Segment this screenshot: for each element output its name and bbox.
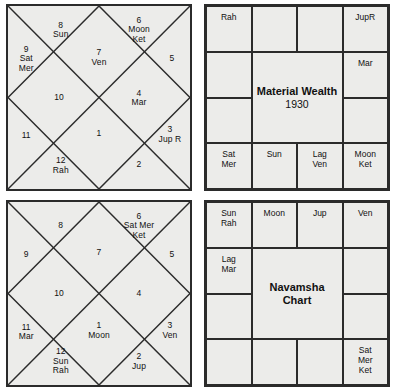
- house-number: 7: [97, 249, 102, 258]
- panel-navamsha-south: SunRahMoonJupVenSatMerKetLagMarNavamshaC…: [198, 196, 396, 392]
- house-planets: Ven: [92, 57, 107, 66]
- house-planets: Ket: [124, 230, 154, 239]
- rasi-cell-top-row-2[interactable]: [252, 6, 298, 52]
- panel-rasi-north: 123Jup R4Mar56MoonKet7Ven8Sun9SatMer1011…: [0, 0, 198, 196]
- rasi-cell-top-row-1[interactable]: Rah: [206, 6, 252, 52]
- rasi-cell-bottom-row-2[interactable]: Sun: [252, 143, 298, 189]
- house-planets: Mar: [132, 98, 147, 107]
- house-planets: Rah: [53, 366, 69, 375]
- house-3[interactable]: 3Ven: [162, 321, 177, 340]
- rasi-cell-left-col-2[interactable]: [206, 52, 252, 98]
- cell-planets: Ven: [298, 159, 342, 169]
- rasi-cell-left-col-3[interactable]: [206, 294, 252, 340]
- rasi-cell-right-col-3[interactable]: [343, 294, 389, 340]
- house-1[interactable]: 1: [97, 129, 102, 138]
- house-2[interactable]: 2Jup: [132, 352, 146, 371]
- rasi-cell-bottom-row-2[interactable]: [252, 339, 298, 385]
- house-6[interactable]: 6Sat MerKet: [124, 212, 154, 240]
- house-number: 11: [22, 131, 31, 140]
- house-5[interactable]: 5: [169, 250, 174, 259]
- house-6[interactable]: 6MoonKet: [128, 16, 150, 44]
- rasi-cell-left-col-3[interactable]: [206, 98, 252, 144]
- house-number: 8: [58, 221, 63, 230]
- house-5[interactable]: 5: [169, 54, 174, 63]
- material-wealth-chart: RahJupRMarMoonKetLagVenSunSatMerMaterial…: [204, 4, 390, 191]
- house-10[interactable]: 10: [54, 289, 64, 298]
- cell-planets: Sun: [207, 208, 251, 218]
- house-9[interactable]: 9: [24, 250, 29, 259]
- house-planets: Mer: [19, 64, 34, 73]
- house-number: 10: [54, 289, 64, 298]
- house-8[interactable]: 8Sun: [53, 20, 68, 39]
- rasi-cell-bottom-row-4[interactable]: SatMerKet: [343, 339, 389, 385]
- rasi-cell-bottom-row-1[interactable]: [206, 339, 252, 385]
- house-3[interactable]: 3Jup R: [159, 125, 182, 144]
- rasi-north-chart: 123Jup R4Mar56MoonKet7Ven8Sun9SatMer1011…: [6, 4, 192, 191]
- rasi-cell-bottom-row-3[interactable]: LagVen: [297, 143, 343, 189]
- chart-title-line2: 1930: [285, 98, 308, 111]
- chart-center-title: NavamshaChart: [252, 248, 343, 340]
- house-12[interactable]: 12Rah: [53, 156, 69, 175]
- house-7[interactable]: 7: [97, 249, 102, 258]
- rasi-cell-bottom-row-3[interactable]: [297, 339, 343, 385]
- rasi-cell-top-row-3[interactable]: Jup: [297, 202, 343, 248]
- house-4[interactable]: 4: [137, 289, 142, 298]
- rasi-cell-top-row-2[interactable]: Moon: [252, 202, 298, 248]
- cell-planets: Moon: [253, 208, 297, 218]
- house-9[interactable]: 9SatMer: [19, 45, 34, 73]
- cell-planets: Mar: [207, 264, 251, 274]
- cell-planets: JupR: [344, 12, 388, 22]
- cell-planets: Lag: [207, 254, 251, 264]
- rasi-cell-top-row-3[interactable]: [297, 6, 343, 52]
- house-number: 5: [169, 250, 174, 259]
- house-planets: Jup: [132, 361, 146, 370]
- house-4[interactable]: 4Mar: [132, 88, 147, 107]
- house-number: 10: [54, 93, 64, 102]
- house-7[interactable]: 7Ven: [92, 48, 107, 67]
- chart-title-line1: Material Wealth: [257, 85, 338, 98]
- house-1[interactable]: 1Moon: [88, 321, 110, 340]
- cell-planets: Moon: [344, 149, 388, 159]
- rasi-cell-bottom-row-4[interactable]: MoonKet: [343, 143, 389, 189]
- cell-planets: Sun: [253, 149, 297, 159]
- house-2[interactable]: 2: [137, 161, 142, 170]
- house-12[interactable]: 12SunRah: [53, 347, 69, 375]
- cell-planets: Rah: [207, 12, 251, 22]
- cell-planets: Mar: [344, 58, 388, 68]
- house-planets: Jup R: [159, 134, 182, 143]
- house-number: 9: [24, 250, 29, 259]
- house-11[interactable]: 11Mar: [19, 323, 34, 342]
- cell-planets: Sat: [344, 345, 388, 355]
- rasi-cell-right-col-2[interactable]: [343, 248, 389, 294]
- cell-planets: Jup: [298, 208, 342, 218]
- navamsha-north-chart: 1Moon2Jup3Ven456Sat MerKet7891011Mar12Su…: [6, 200, 192, 387]
- house-planets: Moon: [88, 330, 110, 339]
- panel-navamsha-north: 1Moon2Jup3Ven456Sat MerKet7891011Mar12Su…: [0, 196, 198, 392]
- navamsha-north-lines: [8, 202, 190, 385]
- panel-material-wealth-south: RahJupRMarMoonKetLagVenSunSatMerMaterial…: [198, 0, 396, 196]
- rasi-cell-right-col-2[interactable]: Mar: [343, 52, 389, 98]
- house-8[interactable]: 8: [58, 221, 63, 230]
- rasi-cell-top-row-4[interactable]: Ven: [343, 202, 389, 248]
- cell-planets: Mer: [344, 355, 388, 365]
- house-planets: Mar: [19, 332, 34, 341]
- house-planets: Rah: [53, 165, 69, 174]
- cell-planets: Ket: [344, 159, 388, 169]
- rasi-cell-top-row-4[interactable]: JupR: [343, 6, 389, 52]
- house-11[interactable]: 11: [22, 131, 31, 140]
- rasi-cell-right-col-3[interactable]: [343, 98, 389, 144]
- cell-planets: Lag: [298, 149, 342, 159]
- rasi-cell-top-row-1[interactable]: SunRah: [206, 202, 252, 248]
- house-number: 4: [137, 289, 142, 298]
- house-planets: Ket: [128, 34, 150, 43]
- cell-planets: Rah: [207, 218, 251, 228]
- cell-planets: Mer: [207, 159, 251, 169]
- rasi-cell-bottom-row-1[interactable]: SatMer: [206, 143, 252, 189]
- rasi-cell-left-col-2[interactable]: LagMar: [206, 248, 252, 294]
- house-10[interactable]: 10: [54, 93, 64, 102]
- house-planets: Ven: [162, 330, 177, 339]
- cell-planets: Ket: [344, 365, 388, 375]
- navamsha-south-chart: SunRahMoonJupVenSatMerKetLagMarNavamshaC…: [204, 200, 390, 387]
- house-number: 5: [169, 54, 174, 63]
- chart-center-title: Material Wealth1930: [252, 52, 343, 144]
